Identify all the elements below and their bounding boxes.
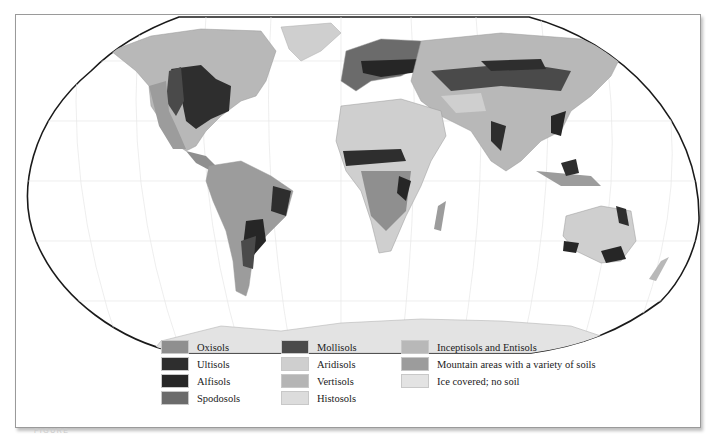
legend-label: Mollisols [317,342,357,353]
legend-column-3: Inceptisols and Entisols Mountain areas … [401,339,596,390]
legend-item-aridisols: Aridisols [281,356,357,373]
legend-swatch [161,391,189,405]
legend-swatch [161,374,189,388]
legend-item-mountain-areas: Mountain areas with a variety of soils [401,356,596,373]
legend-item-histosols: Histosols [281,390,357,407]
legend-label: Spodosols [197,393,240,404]
map-legend: Oxisols Ultisols Alfisols Spodosols Moll… [161,339,701,409]
map-frame: Oxisols Ultisols Alfisols Spodosols Moll… [15,14,701,428]
legend-label: Inceptisols and Entisols [437,342,537,353]
legend-label: Mountain areas with a variety of soils [437,359,596,370]
legend-item-inceptisols-entisols: Inceptisols and Entisols [401,339,596,356]
legend-swatch [401,357,429,371]
legend-item-ultisols: Ultisols [161,356,240,373]
legend-swatch [281,340,309,354]
legend-swatch [281,374,309,388]
figure-caption: FIGURE [34,427,69,434]
legend-label: Ice covered; no soil [437,376,520,387]
legend-swatch [401,374,429,388]
legend-swatch [401,340,429,354]
legend-label: Alfisols [197,376,230,387]
legend-column-2: Mollisols Aridisols Vertisols Histosols [281,339,357,407]
legend-swatch [281,357,309,371]
legend-label: Histosols [317,393,356,404]
legend-item-spodosols: Spodosols [161,390,240,407]
legend-swatch [281,391,309,405]
legend-swatch [161,340,189,354]
legend-swatch [161,357,189,371]
legend-label: Vertisols [317,376,354,387]
legend-label: Aridisols [317,359,356,370]
legend-label: Ultisols [197,359,230,370]
legend-label: Oxisols [197,342,229,353]
legend-item-alfisols: Alfisols [161,373,240,390]
legend-item-ice-covered: Ice covered; no soil [401,373,596,390]
legend-item-mollisols: Mollisols [281,339,357,356]
legend-column-1: Oxisols Ultisols Alfisols Spodosols [161,339,240,407]
legend-item-oxisols: Oxisols [161,339,240,356]
legend-item-vertisols: Vertisols [281,373,357,390]
